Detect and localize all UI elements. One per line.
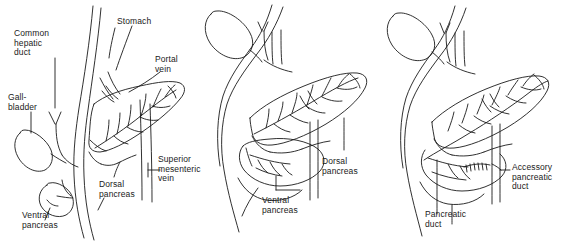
label-portal-vein: Portal vein xyxy=(155,55,178,74)
label-ventral-pancreas-2: Ventral pancreas xyxy=(262,196,298,215)
label-pancreatic-duct: Pancreatic duct xyxy=(425,210,466,229)
pancreas-development-figure: Common hepatic duct Stomach Portal vein … xyxy=(0,0,580,243)
label-stomach: Stomach xyxy=(117,17,151,27)
label-accessory-pancreatic-duct: Accessory pancreatic duct xyxy=(512,163,552,192)
label-dorsal-pancreas-2: Dorsal pancreas xyxy=(322,157,358,176)
label-superior-mesenteric-vein: Superior mesenteric vein xyxy=(158,155,201,184)
label-common-hepatic-duct: Common hepatic duct xyxy=(14,29,49,58)
label-dorsal-pancreas-1: Dorsal pancreas xyxy=(99,180,135,199)
label-ventral-pancreas-1: Ventral pancreas xyxy=(22,211,58,230)
label-gallbladder: Gall- bladder xyxy=(8,93,37,112)
